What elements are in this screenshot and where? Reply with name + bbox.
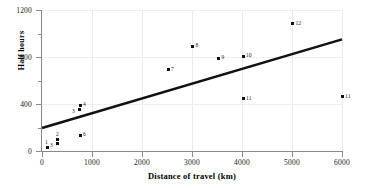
data-point-label: 7 <box>171 66 174 72</box>
data-point <box>291 22 294 25</box>
data-point-label: 3 <box>72 108 75 114</box>
trend-line <box>42 39 342 128</box>
y-axis-title: Half hours <box>17 11 26 91</box>
data-point <box>217 57 220 60</box>
data-point-label: 11 <box>345 93 351 99</box>
data-point-label: 2 <box>56 131 59 137</box>
data-point <box>242 97 245 100</box>
data-point <box>56 142 59 145</box>
data-point-label: 6 <box>83 131 86 137</box>
data-point <box>79 134 82 137</box>
data-point <box>78 108 81 111</box>
data-point <box>46 146 49 149</box>
data-point <box>242 55 245 58</box>
data-point <box>79 104 82 107</box>
data-point-label: 3 <box>50 142 53 148</box>
data-point <box>191 45 194 48</box>
data-point-label: 10 <box>246 52 252 58</box>
data-point-label: 1 <box>45 139 48 145</box>
data-point-label: 4 <box>83 101 86 107</box>
data-point <box>167 68 170 71</box>
data-point <box>341 95 344 98</box>
trend-line-layer <box>0 0 366 188</box>
scatter-chart: 04008001200 0100020003000400050006000 12… <box>0 0 366 188</box>
data-point-label: 12 <box>296 20 302 26</box>
data-point-label: 9 <box>222 54 225 60</box>
data-point-label: 8 <box>196 42 199 48</box>
x-axis-title: Distance of travel (km) <box>42 171 342 181</box>
data-point-label: 11 <box>246 95 252 101</box>
data-point <box>56 138 59 141</box>
